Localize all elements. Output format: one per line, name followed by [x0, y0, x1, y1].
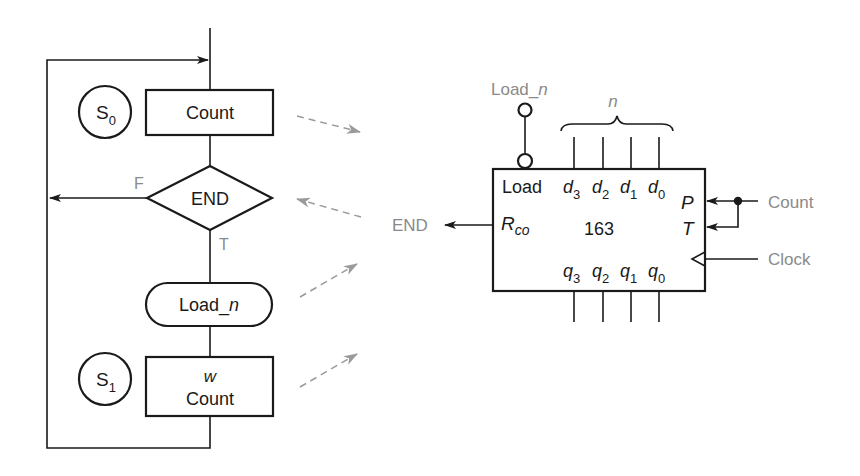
- end-signal-label: END: [392, 216, 428, 235]
- mapping-arrows: [297, 116, 361, 387]
- junction-dot: [734, 197, 742, 205]
- decision-label: END: [191, 189, 229, 209]
- count-to-t-wire: [707, 201, 738, 227]
- asm-chart-diagram: S0 Count END F T Load_n S1 w Count: [0, 0, 860, 476]
- enable-t-label: T: [682, 218, 695, 239]
- load-mapping-arrow: [300, 264, 357, 297]
- load-n-signal-label: Load_n: [491, 80, 548, 99]
- count-mapping-arrow: [297, 116, 360, 132]
- wait-label: w: [204, 367, 218, 386]
- count-label: Count: [186, 389, 234, 409]
- state-s1: S1: [79, 353, 131, 405]
- true-label: T: [219, 236, 229, 253]
- end-mapping-arrow: [297, 199, 361, 217]
- wait-count-mapping-arrow: [300, 354, 357, 387]
- load-pin-label: Load: [502, 177, 542, 197]
- part-number-label: 163: [584, 219, 614, 239]
- bus-brace: [561, 116, 673, 131]
- counter-163-block: Load_n n Load d3 d2 d1 d0 Rco 163 P T q3…: [392, 80, 814, 322]
- enable-p-label: P: [681, 192, 694, 213]
- conditional-output-label: Load_n: [179, 295, 239, 316]
- asm-flowchart: S0 Count END F T Load_n S1 w Count: [47, 28, 273, 448]
- bus-width-label: n: [608, 92, 617, 111]
- load-input-terminal: [519, 104, 532, 117]
- load-inversion-bubble: [518, 154, 532, 168]
- count-box-label: Count: [186, 103, 234, 123]
- false-label: F: [134, 175, 144, 192]
- clock-signal-label: Clock: [768, 250, 811, 269]
- state-s0: S0: [79, 86, 131, 138]
- count-signal-label: Count: [768, 193, 814, 212]
